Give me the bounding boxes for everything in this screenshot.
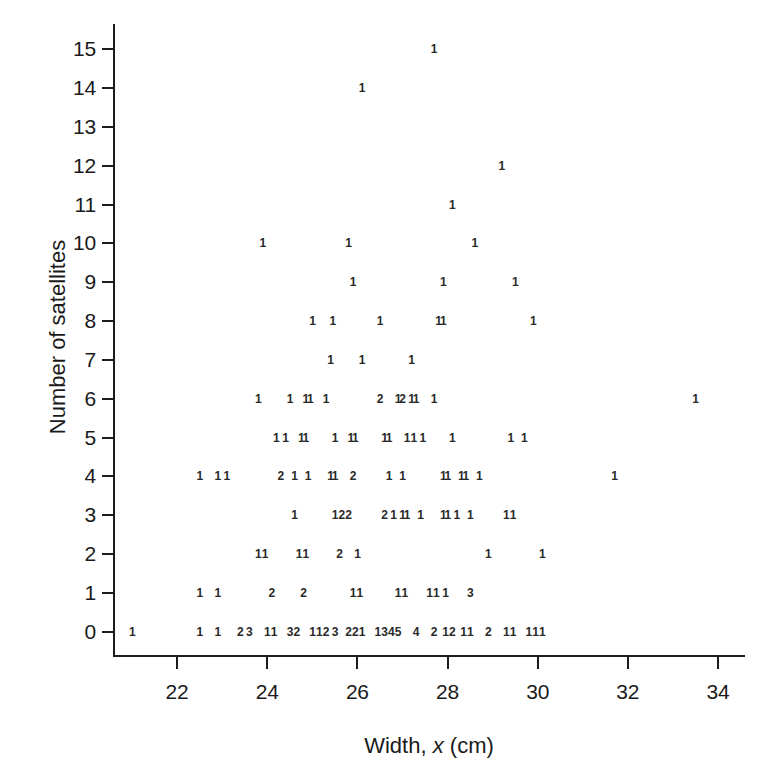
data-point: 1 xyxy=(386,470,392,482)
data-point: 1 xyxy=(433,587,439,599)
y-tick-14 xyxy=(102,87,113,89)
scatter-plot-figure: 0123456789101112131415 22242628303234 11… xyxy=(0,0,759,781)
data-point: 1 xyxy=(350,276,356,288)
data-point: 1 xyxy=(296,548,302,560)
x-tick-label-34: 34 xyxy=(694,681,742,703)
data-point: 1 xyxy=(291,509,297,521)
y-tick-label-2: 2 xyxy=(58,543,96,564)
data-point: 1 xyxy=(302,548,308,560)
y-tick-2 xyxy=(102,553,113,555)
y-tick-label-12: 12 xyxy=(58,155,96,176)
data-point: 1 xyxy=(390,509,396,521)
y-tick-8 xyxy=(102,320,113,322)
data-point: 1 xyxy=(332,509,338,521)
data-point: 1 xyxy=(264,626,270,638)
data-point: 2 xyxy=(269,587,275,599)
y-tick-label-15: 15 xyxy=(58,38,96,59)
data-point: 1 xyxy=(255,393,261,405)
data-point: 1 xyxy=(395,587,401,599)
data-point: 1 xyxy=(442,626,448,638)
data-point: 1 xyxy=(453,509,459,521)
data-point: 1 xyxy=(611,470,617,482)
data-point: 1 xyxy=(305,470,311,482)
data-point: 1 xyxy=(444,470,450,482)
data-point: 1 xyxy=(332,432,338,444)
data-point: 1 xyxy=(402,587,408,599)
data-point: 1 xyxy=(291,470,297,482)
data-point: 1 xyxy=(440,276,446,288)
data-point: 1 xyxy=(260,237,266,249)
y-tick-3 xyxy=(102,514,113,516)
x-tick-32 xyxy=(627,657,629,669)
data-point: 1 xyxy=(271,626,277,638)
data-point: 1 xyxy=(532,626,538,638)
data-point: 1 xyxy=(399,470,405,482)
x-tick-34 xyxy=(717,657,719,669)
data-point: 1 xyxy=(309,626,315,638)
data-point: 1 xyxy=(426,587,432,599)
data-point: 3 xyxy=(467,587,473,599)
data-point: 1 xyxy=(692,393,698,405)
data-point: 1 xyxy=(352,432,358,444)
data-point: 2 xyxy=(336,548,342,560)
x-axis-line xyxy=(113,655,745,657)
data-point: 1 xyxy=(444,509,450,521)
data-point: 1 xyxy=(404,509,410,521)
data-point: 2 xyxy=(278,470,284,482)
data-point: 1 xyxy=(404,432,410,444)
data-point: 1 xyxy=(350,587,356,599)
y-axis-line xyxy=(113,24,115,657)
data-point: 1 xyxy=(467,509,473,521)
x-axis-title: Width, x (cm) xyxy=(113,735,745,757)
data-point: 3 xyxy=(332,626,338,638)
x-axis-variable-symbol: x xyxy=(433,733,444,758)
data-point: 2 xyxy=(293,626,299,638)
data-point: 1 xyxy=(442,587,448,599)
data-point: 1 xyxy=(411,432,417,444)
x-tick-label-24: 24 xyxy=(243,681,291,703)
data-point: 2 xyxy=(345,509,351,521)
data-point: 1 xyxy=(471,237,477,249)
data-point: 1 xyxy=(196,470,202,482)
data-point: 1 xyxy=(498,160,504,172)
data-point: 1 xyxy=(196,587,202,599)
data-point: 1 xyxy=(503,626,509,638)
data-point: 1 xyxy=(359,82,365,94)
data-point: 1 xyxy=(215,587,221,599)
y-tick-12 xyxy=(102,165,113,167)
y-tick-label-14: 14 xyxy=(58,77,96,98)
data-point: 1 xyxy=(309,315,315,327)
data-point: 2 xyxy=(377,393,383,405)
data-point: 1 xyxy=(316,626,322,638)
y-tick-9 xyxy=(102,281,113,283)
data-point: 1 xyxy=(359,354,365,366)
y-tick-label-1: 1 xyxy=(58,582,96,603)
data-point: 1 xyxy=(262,548,268,560)
y-tick-15 xyxy=(102,48,113,50)
data-point: 1 xyxy=(431,43,437,55)
data-point: 2 xyxy=(449,626,455,638)
data-point: 2 xyxy=(485,626,491,638)
x-tick-label-26: 26 xyxy=(333,681,381,703)
data-point: 1 xyxy=(476,470,482,482)
data-point: 1 xyxy=(420,432,426,444)
data-point: 4 xyxy=(388,626,394,638)
x-tick-22 xyxy=(176,657,178,669)
x-tick-24 xyxy=(266,657,268,669)
data-point: 1 xyxy=(510,626,516,638)
data-point: 1 xyxy=(329,315,335,327)
data-point: 1 xyxy=(526,626,532,638)
data-point: 5 xyxy=(395,626,401,638)
data-point: 1 xyxy=(307,393,313,405)
data-point: 1 xyxy=(354,548,360,560)
data-point: 4 xyxy=(413,626,419,638)
data-point: 1 xyxy=(467,626,473,638)
x-tick-label-32: 32 xyxy=(604,681,652,703)
x-tick-30 xyxy=(537,657,539,669)
data-point: 2 xyxy=(350,470,356,482)
data-point: 2 xyxy=(323,626,329,638)
x-tick-label-30: 30 xyxy=(514,681,562,703)
y-axis-title: Number of satellites xyxy=(47,187,69,487)
y-tick-13 xyxy=(102,126,113,128)
data-point: 1 xyxy=(449,432,455,444)
